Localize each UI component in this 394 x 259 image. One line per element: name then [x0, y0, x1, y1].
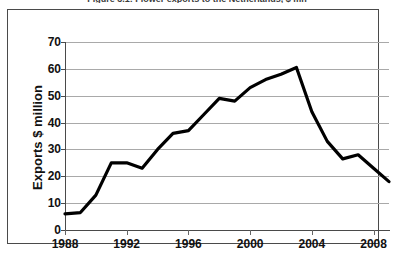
chart-frame: Exports $ million 706050403020100 198819… [7, 9, 379, 244]
gridline-40 [65, 123, 389, 124]
y-tick-label-0: 0 [15, 224, 61, 236]
x-tick-mark-1992 [127, 230, 128, 235]
x-tick-label-1992: 1992 [105, 238, 149, 251]
y-tick-label-10: 10 [15, 197, 61, 209]
y-tick-mark-20 [61, 176, 66, 177]
x-tick-mark-2000 [250, 230, 251, 235]
figure-root: Figure 3.1: Flower exports to the Nether… [0, 0, 394, 259]
y-tick-label-70: 70 [15, 36, 61, 48]
gridline-10 [65, 203, 389, 204]
gridline-60 [65, 69, 389, 70]
y-tick-label-40: 40 [15, 117, 61, 129]
y-tick-mark-50 [61, 96, 66, 97]
y-tick-mark-60 [61, 69, 66, 70]
y-tick-label-30: 30 [15, 143, 61, 155]
gridline-70 [65, 42, 389, 43]
figure-caption: Figure 3.1: Flower exports to the Nether… [0, 0, 394, 3]
y-tick-label-20: 20 [15, 170, 61, 182]
x-axis-line [65, 230, 390, 231]
y-tick-mark-10 [61, 203, 66, 204]
gridline-30 [65, 149, 389, 150]
y-tick-mark-40 [61, 123, 66, 124]
y-tick-label-50: 50 [15, 90, 61, 102]
gridline-50 [65, 96, 389, 97]
y-tick-mark-70 [61, 42, 66, 43]
y-tick-mark-30 [61, 149, 66, 150]
x-tick-mark-2008 [374, 230, 375, 235]
plot-area [65, 42, 389, 230]
x-tick-label-2000: 2000 [228, 238, 272, 251]
x-tick-mark-1988 [65, 230, 66, 235]
gridline-20 [65, 176, 389, 177]
x-tick-label-2008: 2008 [352, 238, 394, 251]
x-tick-mark-1996 [188, 230, 189, 235]
y-axis-tick-labels: 706050403020100 [11, 10, 61, 259]
y-tick-label-60: 60 [15, 63, 61, 75]
x-tick-label-1988: 1988 [43, 238, 87, 251]
x-tick-label-1996: 1996 [166, 238, 210, 251]
x-tick-label-2004: 2004 [290, 238, 334, 251]
x-tick-mark-2004 [312, 230, 313, 235]
